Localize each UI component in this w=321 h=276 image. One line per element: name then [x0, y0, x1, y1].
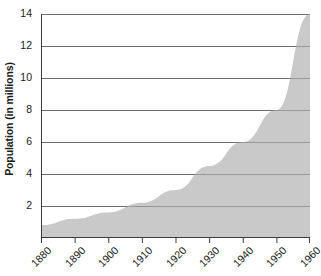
y-tick-label-8: 8 [0, 103, 37, 115]
plot-area [41, 14, 310, 238]
x-tick-label-1880: 1880 [3, 244, 54, 276]
y-axis-tick-labels: 2468101214 [0, 0, 37, 276]
y-tick-label-6: 6 [0, 135, 37, 147]
plot-svg [41, 14, 310, 238]
population-area-chart: Population (in millions) 2468101214 1880… [0, 0, 321, 276]
y-tick-label-4: 4 [0, 167, 37, 179]
y-tick-label-14: 14 [0, 7, 37, 19]
y-tick-label-2: 2 [0, 199, 37, 211]
y-tick-label-10: 10 [0, 71, 37, 83]
x-axis-tick-labels: 188018901900191019201930194019501960 [0, 238, 321, 276]
area-series-population [41, 14, 310, 238]
y-tick-label-12: 12 [0, 39, 37, 51]
